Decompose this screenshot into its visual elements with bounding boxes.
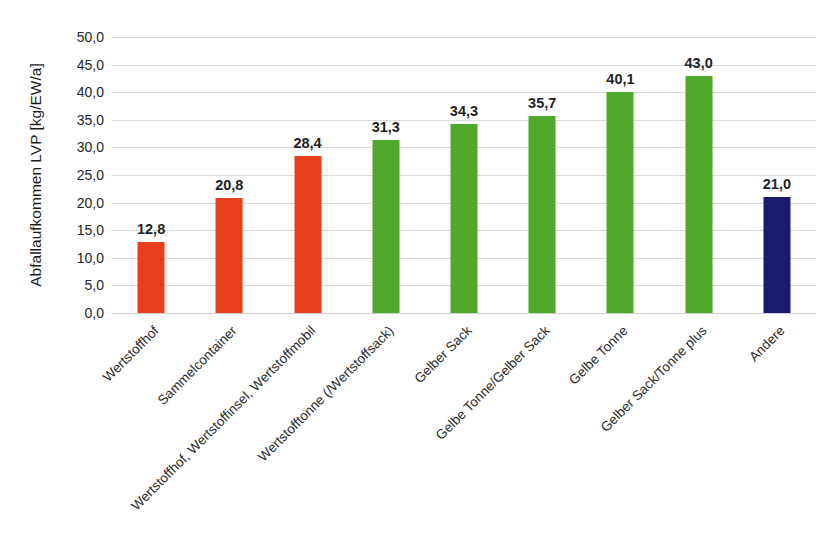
bar-value-label: 12,8 [137,221,165,237]
bar-value-label: 40,1 [606,71,634,87]
bar-value-label: 21,0 [763,176,791,192]
bar[interactable] [607,92,634,313]
x-axis-label-slot: Sammelcontainer [190,313,268,533]
x-axis-label-slot: Gelbe Tonne [581,313,659,533]
y-axis-tick-label: 40,0 [54,84,104,100]
y-axis-tick-label: 25,0 [54,167,104,183]
y-axis-tick-label: 15,0 [54,222,104,238]
x-axis-label-slot: Andere [738,313,816,533]
bar[interactable] [529,116,556,313]
bar-slot: 12,8 [112,37,190,313]
bar[interactable] [372,140,399,313]
y-axis-tick-label: 30,0 [54,139,104,155]
x-axis-label-slot: Gelber Sack/Tonne plus [660,313,738,533]
bar-chart: Abfallaufkommen LVP [kg/EW/a] 50,045,040… [0,0,839,539]
y-axis-tick-label: 5,0 [54,277,104,293]
bar-value-label: 20,8 [215,177,243,193]
x-axis-label-slot: Gelber Sack [425,313,503,533]
bar[interactable] [685,76,712,313]
x-axis-label-slot: Gelbe Tonne/Gelber Sack [503,313,581,533]
bar[interactable] [216,198,243,313]
bar-value-label: 31,3 [372,119,400,135]
y-axis-tick-label: 45,0 [54,57,104,73]
bar[interactable] [294,156,321,313]
x-axis-label-slot: Wertstoffhof, Wertstoffinsel, Wertstoffm… [268,313,346,533]
x-axis-tick-label-text: Wertstoffhof [100,323,162,385]
x-axis-label-slot: Wertstofftonne (/Wertstoffsack) [347,313,425,533]
y-axis-tick-label: 50,0 [54,29,104,45]
bar-value-label: 35,7 [528,95,556,111]
x-axis-tick-label-text: Andere [746,323,787,364]
bar-value-label: 34,3 [450,103,478,119]
y-axis-tick-label: 10,0 [54,250,104,266]
bar[interactable] [450,124,477,313]
y-axis-tick-label: 35,0 [54,112,104,128]
x-axis-tick-labels: WertstoffhofSammelcontainerWertstoffhof,… [112,313,816,533]
y-axis-tick-label: 0,0 [54,305,104,321]
y-axis-tick-label: 20,0 [54,195,104,211]
y-axis-tick-labels: 50,045,040,035,030,025,020,015,010,05,00… [0,37,112,313]
bar-value-label: 28,4 [293,135,321,151]
bar[interactable] [138,242,165,313]
bar-value-label: 43,0 [685,55,713,71]
